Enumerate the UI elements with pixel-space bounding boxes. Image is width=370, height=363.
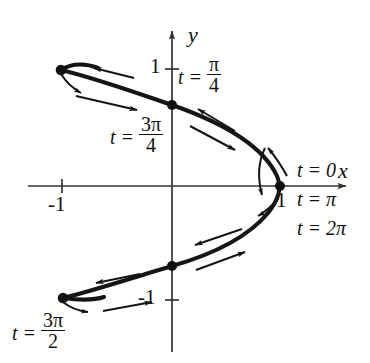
annotation-t-3pi-over-2-denominator: 2 bbox=[41, 330, 65, 351]
curve-hook-lower bbox=[63, 297, 104, 300]
annotation-t-0: t = 0 bbox=[297, 160, 336, 180]
annotation-t-pi-over-4-fraction: π 4 bbox=[207, 54, 221, 95]
point-label-one: 1 bbox=[276, 190, 287, 211]
x-axis-label: x bbox=[338, 160, 348, 182]
point-crossing-lower bbox=[167, 261, 177, 271]
arrow-hook-top-left bbox=[61, 74, 81, 93]
annotation-t-3pi-over-4-numerator: 3π bbox=[139, 114, 163, 134]
arrow-upper-outer-left bbox=[94, 68, 134, 78]
arrow-right-upper-inner-left bbox=[198, 109, 235, 131]
arrow-hook-bottom-left bbox=[63, 302, 88, 312]
annotation-t-pi-over-4-denominator: 4 bbox=[207, 74, 221, 95]
point-crossing-upper bbox=[167, 100, 177, 110]
annotation-t-3pi-over-4: t = 3π 4 bbox=[110, 116, 163, 157]
y-tick-label-1: 1 bbox=[150, 56, 161, 77]
annotation-t-2pi: t = 2π bbox=[297, 218, 346, 238]
annotation-t-pi: t = π bbox=[297, 189, 336, 209]
annotation-t-3pi-over-4-fraction: 3π 4 bbox=[139, 114, 163, 155]
curve-marked-points bbox=[56, 65, 285, 304]
annotation-t-pi-over-4-numerator: π bbox=[207, 54, 221, 74]
annotation-t-pi-over-4: t = π 4 bbox=[178, 56, 221, 97]
y-axis-label: y bbox=[188, 24, 198, 46]
point-endpoint-bottom-left bbox=[58, 293, 69, 304]
arrow-upper-inner-right bbox=[76, 96, 137, 110]
annotation-t-3pi-over-2: t = 3π 2 bbox=[12, 312, 65, 353]
annotation-t-3pi-over-2-fraction: 3π 2 bbox=[41, 310, 65, 351]
annotation-t-3pi-over-4-denominator: 4 bbox=[139, 134, 163, 155]
annotation-t-pi-over-4-eq: t = bbox=[178, 67, 202, 87]
point-endpoint-top-left bbox=[56, 65, 67, 76]
x-tick-label-minus-1: -1 bbox=[48, 194, 66, 215]
arrow-right-lower-upper-left bbox=[195, 229, 242, 245]
annotation-t-3pi-over-2-numerator: 3π bbox=[41, 310, 65, 330]
annotation-t-3pi-over-4-eq: t = bbox=[110, 127, 134, 147]
curve-hook-upper bbox=[61, 65, 98, 71]
annotation-t-3pi-over-2-eq: t = bbox=[12, 323, 36, 343]
y-tick-label-minus-1: -1 bbox=[138, 287, 156, 308]
arrow-cusp-outer-up bbox=[268, 148, 287, 176]
